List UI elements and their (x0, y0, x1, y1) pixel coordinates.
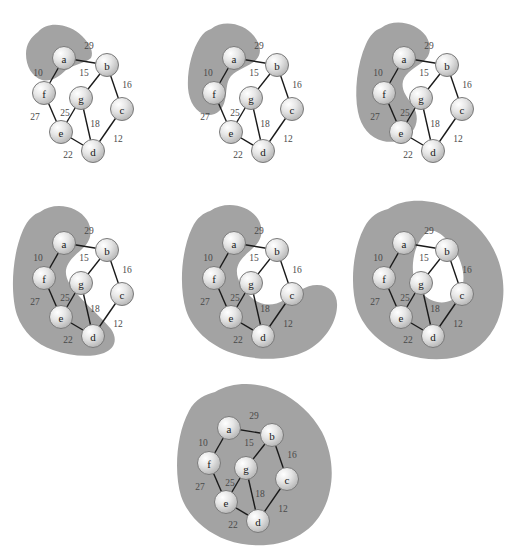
edge-weight-b-g: 15 (79, 253, 89, 263)
edge-weight-g-d: 18 (260, 304, 270, 314)
node-label-a: a (232, 238, 237, 250)
node-label-c: c (120, 104, 125, 116)
edge-weight-e-d: 22 (233, 150, 243, 160)
node-label-e: e (229, 127, 234, 139)
edge-weight-b-g: 15 (249, 68, 259, 78)
edge-weight-a-b: 29 (254, 226, 264, 236)
edge-weight-g-d: 18 (430, 304, 440, 314)
node-label-e: e (399, 127, 404, 139)
edge-weight-g-e: 25 (60, 108, 70, 118)
node-label-b: b (444, 60, 450, 72)
node-label-f: f (42, 88, 46, 100)
edge-weight-c-d: 12 (453, 134, 463, 144)
edge-weight-e-d: 22 (233, 335, 243, 345)
node-label-a: a (232, 53, 237, 65)
edge-weight-g-d: 18 (90, 304, 100, 314)
edge-weight-g-e: 25 (400, 293, 410, 303)
node-label-b: b (274, 60, 280, 72)
edge-weight-a-f: 10 (203, 253, 213, 263)
panel-step-7: 291015162725181222abcdefg (173, 378, 338, 546)
edge-weight-c-d: 12 (278, 504, 288, 514)
edge-weight-b-c: 16 (292, 265, 302, 275)
node-label-g: g (78, 93, 84, 105)
edge-weight-c-d: 12 (113, 319, 123, 329)
node-label-c: c (460, 289, 465, 301)
edge-weight-f-e: 27 (200, 297, 210, 307)
edge-weight-g-d: 18 (260, 119, 270, 129)
node-label-g: g (243, 463, 249, 475)
node-label-b: b (274, 245, 280, 257)
node-label-a: a (62, 53, 67, 65)
node-label-d: d (260, 331, 266, 343)
edge-weight-f-e: 27 (30, 112, 40, 122)
edge-weight-f-e: 27 (370, 297, 380, 307)
node-label-g: g (418, 278, 424, 290)
node-label-c: c (120, 289, 125, 301)
edge-weight-g-d: 18 (430, 119, 440, 129)
node-label-d: d (260, 146, 266, 158)
node-label-g: g (248, 278, 254, 290)
edge-weight-g-e: 25 (225, 478, 235, 488)
node-label-c: c (290, 289, 295, 301)
edge-weight-c-d: 12 (283, 319, 293, 329)
node-label-c: c (460, 104, 465, 116)
node-label-e: e (229, 312, 234, 324)
edge-weight-f-e: 27 (195, 482, 205, 492)
edge-weight-a-f: 10 (373, 68, 383, 78)
edge-weight-g-e: 25 (230, 293, 240, 303)
edge-weight-e-d: 22 (63, 150, 73, 160)
node-label-a: a (402, 238, 407, 250)
node-label-d: d (430, 146, 436, 158)
node-label-b: b (444, 245, 450, 257)
edge-weight-g-e: 25 (400, 108, 410, 118)
edge-weight-g-e: 25 (60, 293, 70, 303)
edge-weight-e-d: 22 (63, 335, 73, 345)
node-label-d: d (255, 516, 261, 528)
edge-weight-a-f: 10 (198, 438, 208, 448)
edge-weight-g-d: 18 (255, 489, 265, 499)
edge-weight-b-g: 15 (249, 253, 259, 263)
panel-step-1: 291015162725181222abcdefg (8, 8, 173, 178)
prim-algorithm-figure: 291015162725181222abcdefg291015162725181… (0, 0, 508, 546)
edge-weight-b-g: 15 (244, 438, 254, 448)
edge-weight-f-e: 27 (30, 297, 40, 307)
edge-weight-a-f: 10 (203, 68, 213, 78)
node-label-g: g (418, 93, 424, 105)
edge-weight-a-b: 29 (84, 41, 94, 51)
node-label-b: b (104, 245, 110, 257)
edge-weight-c-d: 12 (283, 134, 293, 144)
edge-weight-b-c: 16 (292, 80, 302, 90)
edge-weight-g-e: 25 (230, 108, 240, 118)
node-label-a: a (62, 238, 67, 250)
edge-weight-g-d: 18 (90, 119, 100, 129)
edge-weight-a-f: 10 (373, 253, 383, 263)
edge-weight-a-b: 29 (254, 41, 264, 51)
node-label-d: d (90, 331, 96, 343)
edge-weight-a-b: 29 (424, 41, 434, 51)
edge-weight-a-b: 29 (84, 226, 94, 236)
edge-weight-f-e: 27 (200, 112, 210, 122)
node-label-g: g (78, 278, 84, 290)
edge-weight-a-f: 10 (33, 253, 43, 263)
edge-weight-e-d: 22 (228, 520, 238, 530)
edge-weight-c-d: 12 (113, 134, 123, 144)
edge-weight-b-g: 15 (79, 68, 89, 78)
panel-step-6: 291015162725181222abcdefg (348, 193, 508, 363)
edge-weight-a-b: 29 (424, 226, 434, 236)
panel-step-4: 291015162725181222abcdefg (8, 193, 173, 363)
edge-weight-b-g: 15 (419, 68, 429, 78)
edge-weight-a-b: 29 (249, 411, 259, 421)
node-label-e: e (224, 497, 229, 509)
node-label-f: f (207, 458, 211, 470)
node-label-c: c (290, 104, 295, 116)
panel-step-2: 291015162725181222abcdefg (178, 8, 343, 178)
edge-weight-b-c: 16 (462, 80, 472, 90)
edge-weight-b-c: 16 (122, 265, 132, 275)
node-label-f: f (382, 273, 386, 285)
node-label-e: e (59, 312, 64, 324)
node-label-f: f (212, 88, 216, 100)
node-label-a: a (227, 423, 232, 435)
node-label-f: f (212, 273, 216, 285)
edge-weight-e-d: 22 (403, 335, 413, 345)
node-label-a: a (402, 53, 407, 65)
